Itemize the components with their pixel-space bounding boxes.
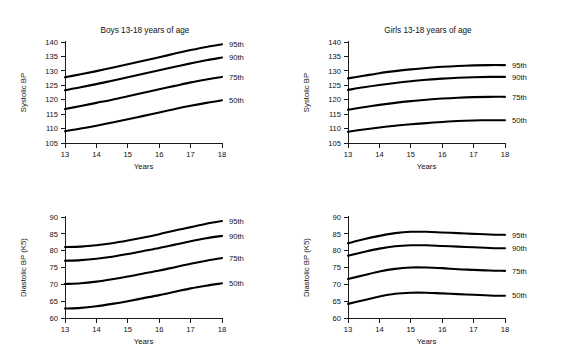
percentile-curve-75th (348, 267, 505, 279)
plot-group-girls-diastolic: 60657075808590131415161718YearsDiastolic… (302, 213, 527, 346)
x-axis-title: Years (134, 162, 154, 171)
y-axis-title: Systolic BP (302, 73, 311, 112)
x-tick-label: 17 (186, 150, 194, 159)
y-tick-label: 135 (45, 52, 58, 61)
y-tick-label: 90 (50, 213, 58, 222)
x-tick-label: 13 (344, 325, 352, 334)
y-tick-label: 130 (45, 67, 58, 76)
y-tick-label: 105 (45, 139, 58, 148)
plot-group-boys-diastolic: 60657075808590131415161718YearsDiastolic… (19, 213, 244, 346)
series-label-50th: 50th (512, 116, 527, 125)
x-tick-label: 18 (501, 325, 509, 334)
chart-boys-diastolic: 60657075808590131415161718YearsDiastolic… (0, 175, 282, 350)
chart-girls-systolic: Girls 13-18 years of age 105110115120125… (283, 0, 565, 175)
y-tick-label: 140 (328, 38, 341, 47)
y-tick-label: 140 (45, 38, 58, 47)
percentile-curve-95th (348, 232, 505, 244)
series-label-95th: 95th (512, 61, 527, 70)
percentile-curve-50th (348, 293, 505, 304)
percentile-curve-90th (348, 245, 505, 256)
x-tick-label: 15 (407, 150, 415, 159)
percentile-curve-75th (65, 258, 222, 284)
x-tick-label: 17 (469, 150, 477, 159)
x-tick-label: 17 (186, 325, 194, 334)
x-tick-label: 18 (218, 150, 226, 159)
series-label-90th: 90th (512, 244, 527, 253)
series-label-50th: 50th (229, 96, 244, 105)
panel-girls-systolic: Girls 13-18 years of age 105110115120125… (283, 0, 565, 175)
plot-group-boys-systolic: 105110115120125130135140131415161718Year… (19, 38, 244, 171)
x-tick-label: 17 (469, 325, 477, 334)
x-tick-label: 14 (92, 325, 100, 334)
series-label-95th: 95th (229, 40, 244, 49)
percentile-curve-75th (348, 97, 505, 110)
panel-boys-systolic: Boys 13-18 years of age 1051101151201251… (0, 0, 282, 175)
y-tick-label: 75 (50, 263, 58, 272)
series-label-95th: 95th (512, 231, 527, 240)
y-axis-title: Systolic BP (19, 73, 28, 112)
y-tick-label: 110 (329, 124, 341, 133)
blood-pressure-percentile-figure: Boys 13-18 years of age 1051101151201251… (0, 0, 565, 350)
x-axis-title: Years (417, 337, 437, 346)
series-label-50th: 50th (229, 279, 244, 288)
y-tick-label: 85 (333, 230, 341, 239)
x-tick-label: 14 (375, 325, 383, 334)
x-tick-label: 13 (61, 325, 69, 334)
y-tick-label: 115 (329, 110, 341, 119)
x-tick-label: 15 (124, 325, 132, 334)
y-tick-label: 125 (328, 81, 341, 90)
x-tick-label: 18 (501, 150, 509, 159)
series-label-95th: 95th (229, 217, 244, 226)
series-label-90th: 90th (229, 53, 244, 62)
y-tick-label: 120 (45, 95, 58, 104)
chart-girls-diastolic: 60657075808590131415161718YearsDiastolic… (283, 175, 565, 350)
y-axis-title: Diastolic BP (K5) (19, 238, 28, 297)
y-tick-label: 115 (46, 110, 58, 119)
percentile-curve-90th (348, 77, 505, 90)
series-label-90th: 90th (229, 232, 244, 241)
y-tick-label: 70 (333, 280, 341, 289)
x-axis-title: Years (417, 162, 437, 171)
chart-boys-systolic: Boys 13-18 years of age 1051101151201251… (0, 0, 282, 175)
y-tick-label: 105 (328, 139, 341, 148)
x-tick-label: 15 (124, 150, 132, 159)
x-tick-label: 16 (155, 325, 163, 334)
percentile-curve-50th (348, 120, 505, 132)
series-label-90th: 90th (512, 73, 527, 82)
series-label-75th: 75th (512, 267, 527, 276)
y-tick-label: 90 (333, 213, 341, 222)
y-tick-label: 60 (50, 314, 58, 323)
y-tick-label: 110 (46, 124, 58, 133)
plot-group-girls-systolic: 105110115120125130135140131415161718Year… (302, 38, 527, 171)
x-tick-label: 16 (155, 150, 163, 159)
y-tick-label: 130 (328, 67, 341, 76)
y-tick-label: 75 (333, 263, 341, 272)
x-tick-label: 13 (344, 150, 352, 159)
y-tick-label: 70 (50, 280, 58, 289)
percentile-curve-50th (65, 283, 222, 308)
x-tick-label: 14 (92, 150, 100, 159)
x-tick-label: 18 (218, 325, 226, 334)
x-tick-label: 15 (407, 325, 415, 334)
chart-title-girls-systolic: Girls 13-18 years of age (384, 26, 472, 35)
y-tick-label: 120 (328, 95, 341, 104)
percentile-curve-90th (65, 236, 222, 261)
y-axis-title: Diastolic BP (K5) (302, 238, 311, 297)
series-label-75th: 75th (229, 254, 244, 263)
y-tick-label: 125 (45, 81, 58, 90)
x-axis-title: Years (134, 337, 154, 346)
series-label-75th: 75th (229, 73, 244, 82)
percentile-curve-95th (65, 221, 222, 247)
x-tick-label: 13 (61, 150, 69, 159)
y-tick-label: 135 (328, 52, 341, 61)
percentile-curve-90th (65, 58, 222, 91)
x-tick-label: 14 (375, 150, 383, 159)
series-label-50th: 50th (512, 291, 527, 300)
panel-girls-diastolic: 60657075808590131415161718YearsDiastolic… (283, 175, 565, 350)
x-tick-label: 16 (438, 150, 446, 159)
x-tick-label: 16 (438, 325, 446, 334)
y-tick-label: 85 (50, 230, 58, 239)
series-label-75th: 75th (512, 93, 527, 102)
y-tick-label: 65 (50, 297, 58, 306)
y-tick-label: 60 (333, 314, 341, 323)
